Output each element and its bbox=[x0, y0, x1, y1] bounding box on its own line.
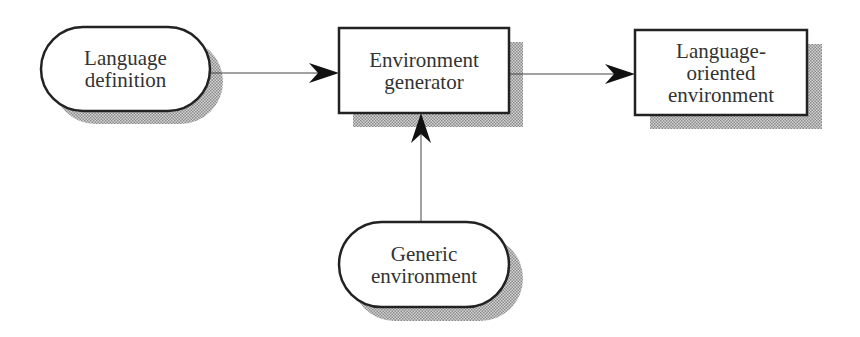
label-line: Language- bbox=[676, 40, 766, 62]
label-line: generator bbox=[384, 71, 463, 93]
label-line: Language bbox=[84, 47, 167, 69]
label-line: environment bbox=[668, 84, 774, 106]
language-definition-label: Language definition bbox=[41, 27, 210, 111]
label-line: definition bbox=[85, 69, 167, 91]
label-line: environment bbox=[371, 265, 477, 287]
language-oriented-environment-label: Language- oriented environment bbox=[635, 30, 807, 115]
environment-generator-label: Environment generator bbox=[339, 28, 509, 113]
label-line: oriented bbox=[687, 62, 756, 84]
label-line: Generic bbox=[391, 243, 457, 265]
label-line: Environment bbox=[369, 49, 479, 71]
generic-environment-label: Generic environment bbox=[339, 222, 509, 307]
